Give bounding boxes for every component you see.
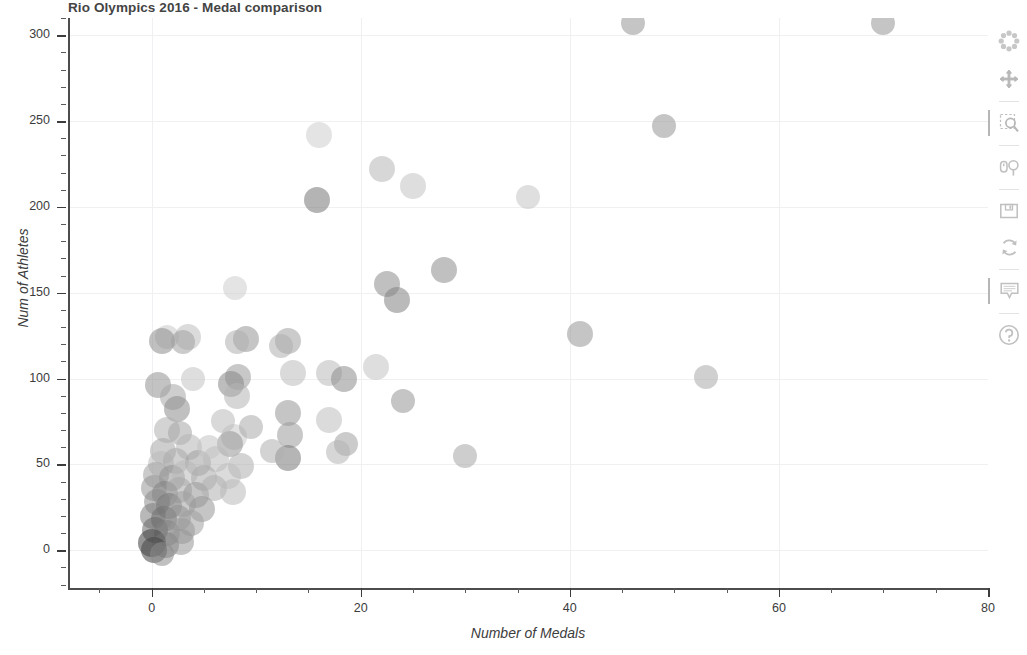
x-tick-minor xyxy=(518,588,519,593)
x-tick-major xyxy=(361,588,363,597)
x-axis-label: Number of Medals xyxy=(68,625,988,641)
y-tick-major xyxy=(57,35,66,37)
x-tick-label: 80 xyxy=(968,601,1008,615)
y-tick-minor xyxy=(61,396,66,397)
box-zoom-tool-icon[interactable] xyxy=(994,108,1024,138)
y-tick-minor xyxy=(61,276,66,277)
y-tick-minor xyxy=(61,70,66,71)
scatter-point xyxy=(239,415,263,439)
x-tick-minor xyxy=(256,588,257,593)
scatter-points-layer xyxy=(68,18,988,588)
y-tick-label: 0 xyxy=(6,542,50,556)
y-tick-label: 300 xyxy=(6,27,50,41)
x-tick-minor xyxy=(99,588,100,593)
scatter-point xyxy=(384,287,410,313)
scatter-point xyxy=(306,122,332,148)
reset-tool-icon[interactable] xyxy=(994,232,1024,262)
save-tool-icon[interactable] xyxy=(994,196,1024,226)
toolbar-separator xyxy=(999,145,1019,146)
x-tick-major xyxy=(152,588,154,597)
x-tick-minor xyxy=(727,588,728,593)
scatter-point xyxy=(363,354,389,380)
x-tick-minor xyxy=(936,588,937,593)
scatter-point xyxy=(621,18,645,35)
y-tick-minor xyxy=(61,173,66,174)
scatter-point xyxy=(223,276,247,300)
scatter-point xyxy=(280,360,306,386)
scatter-point xyxy=(171,330,195,354)
y-tick-minor xyxy=(61,499,66,500)
y-tick-minor xyxy=(61,533,66,534)
y-tick-label: 250 xyxy=(6,113,50,127)
x-tick-label: 60 xyxy=(759,601,799,615)
scatter-point xyxy=(220,479,246,505)
y-tick-minor xyxy=(61,447,66,448)
y-tick-minor xyxy=(61,87,66,88)
scatter-point xyxy=(150,542,174,566)
y-tick-minor xyxy=(61,567,66,568)
scatter-point xyxy=(567,321,593,347)
y-tick-minor xyxy=(61,104,66,105)
y-tick-minor xyxy=(61,430,66,431)
y-tick-minor xyxy=(61,190,66,191)
x-tick-major xyxy=(988,588,990,597)
scatter-point xyxy=(431,257,457,283)
x-tick-minor xyxy=(831,588,832,593)
plot-toolbar[interactable] xyxy=(993,26,1025,356)
x-tick-label: 40 xyxy=(550,601,590,615)
y-tick-minor xyxy=(61,344,66,345)
y-tick-minor xyxy=(61,310,66,311)
x-tick-minor xyxy=(413,588,414,593)
wheel-zoom-tool-icon[interactable] xyxy=(994,152,1024,182)
y-tick-major xyxy=(57,550,66,552)
pan-tool-icon[interactable] xyxy=(994,64,1024,94)
y-axis-label: Num of Athletes xyxy=(15,158,31,398)
toolbar-separator xyxy=(999,189,1019,190)
x-tick-minor xyxy=(674,588,675,593)
help-tool-icon[interactable] xyxy=(994,320,1024,350)
scatter-point xyxy=(269,334,293,358)
scatter-point xyxy=(694,365,718,389)
plot-canvas[interactable] xyxy=(68,18,988,588)
y-tick-minor xyxy=(61,155,66,156)
y-axis-line xyxy=(68,18,70,590)
scatter-point xyxy=(211,409,235,433)
y-tick-label: 50 xyxy=(6,456,50,470)
scatter-point xyxy=(181,367,205,391)
scatter-point xyxy=(224,383,250,409)
y-tick-minor xyxy=(61,361,66,362)
y-tick-minor xyxy=(61,258,66,259)
bokeh-plot-app: Rio Olympics 2016 - Medal comparison 020… xyxy=(0,0,1027,655)
y-tick-major xyxy=(57,207,66,209)
y-tick-minor xyxy=(61,327,66,328)
x-tick-label: 20 xyxy=(341,601,381,615)
hover-tool-icon[interactable] xyxy=(994,276,1024,306)
y-tick-minor xyxy=(61,224,66,225)
toolbar-separator xyxy=(999,313,1019,314)
scatter-point xyxy=(400,173,426,199)
x-tick-minor xyxy=(883,588,884,593)
scatter-point xyxy=(326,440,350,464)
scatter-point xyxy=(453,444,477,468)
y-tick-major xyxy=(57,379,66,381)
y-tick-minor xyxy=(61,516,66,517)
scatter-point xyxy=(260,439,284,463)
x-tick-minor xyxy=(204,588,205,593)
y-tick-minor xyxy=(61,585,66,586)
page-title: Rio Olympics 2016 - Medal comparison xyxy=(68,0,322,15)
scatter-point xyxy=(391,389,415,413)
scatter-point xyxy=(516,185,540,209)
y-tick-major xyxy=(57,464,66,466)
x-tick-minor xyxy=(465,588,466,593)
toolbar-separator xyxy=(999,101,1019,102)
x-tick-major xyxy=(779,588,781,597)
y-tick-major xyxy=(57,293,66,295)
bokeh-logo-icon[interactable] xyxy=(994,26,1024,56)
x-tick-label: 0 xyxy=(132,601,172,615)
y-tick-major xyxy=(57,121,66,123)
scatter-point xyxy=(652,114,676,138)
y-tick-minor xyxy=(61,52,66,53)
y-tick-minor xyxy=(61,482,66,483)
y-tick-minor xyxy=(61,18,66,19)
x-tick-minor xyxy=(622,588,623,593)
